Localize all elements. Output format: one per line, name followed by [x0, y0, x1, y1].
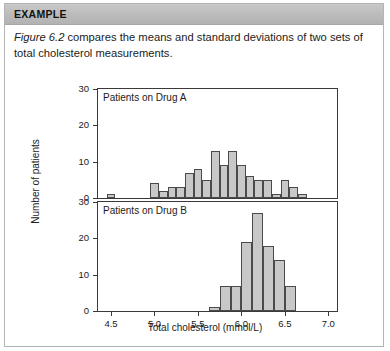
- y-tick-label: 10: [49, 269, 89, 280]
- bar: [272, 194, 281, 198]
- bar: [159, 191, 168, 198]
- x-tick-label: 4.5: [91, 318, 131, 329]
- bar: [231, 286, 242, 311]
- bar: [281, 180, 290, 198]
- paragraph-text: compares the means and standard deviatio…: [14, 31, 363, 59]
- x-tick-label: 5.0: [134, 318, 174, 329]
- y-tick-label: 30: [49, 196, 89, 207]
- bar: [241, 242, 252, 311]
- y-tick-label: 20: [49, 232, 89, 243]
- x-tick-mark: [241, 312, 242, 316]
- bar: [176, 187, 185, 198]
- bars-drug-b: [98, 202, 337, 311]
- x-tick-label: 6.5: [265, 318, 305, 329]
- figure-area: Number of patients Total cholesterol (mm…: [5, 64, 385, 346]
- x-tick-mark: [154, 312, 155, 316]
- y-tick-label: 30: [49, 83, 89, 94]
- histogram-drug-a: Patients on Drug A: [97, 88, 338, 199]
- y-tick-label: 0: [49, 305, 89, 316]
- bar: [263, 246, 274, 311]
- bar: [168, 187, 177, 198]
- bar: [298, 194, 307, 198]
- bar: [211, 151, 220, 198]
- x-tick-mark: [198, 312, 199, 316]
- histogram-drug-b: Patients on Drug B: [97, 201, 338, 312]
- bar: [202, 180, 211, 198]
- example-header-label: EXAMPLE: [14, 8, 67, 20]
- example-card: EXAMPLE Figure 6.2 compares the means an…: [4, 3, 384, 347]
- bar: [194, 169, 203, 198]
- bar: [285, 286, 296, 311]
- bar: [246, 176, 255, 198]
- bar: [209, 307, 220, 311]
- y-tick-label: 20: [49, 119, 89, 130]
- bar: [252, 213, 263, 311]
- bar: [220, 165, 229, 198]
- bar: [107, 194, 116, 198]
- x-tick-label: 7.0: [308, 318, 348, 329]
- x-tick-label: 5.5: [178, 318, 218, 329]
- bar: [274, 260, 285, 311]
- bar: [263, 180, 272, 198]
- example-paragraph: Figure 6.2 compares the means and standa…: [14, 30, 376, 61]
- x-tick-mark: [328, 312, 329, 316]
- x-tick-mark: [285, 312, 286, 316]
- y-axis-label: Number of patients: [30, 112, 41, 252]
- bar: [185, 173, 194, 198]
- bar: [289, 187, 298, 198]
- bar: [228, 151, 237, 198]
- bars-drug-a: [98, 89, 337, 198]
- y-tick-label: 10: [49, 156, 89, 167]
- bar: [150, 183, 159, 198]
- bar: [237, 165, 246, 198]
- bar: [254, 180, 263, 198]
- x-tick-mark: [111, 312, 112, 316]
- example-header-band: EXAMPLE: [5, 4, 383, 25]
- x-tick-label: 6.0: [221, 318, 261, 329]
- bar: [220, 286, 231, 311]
- figure-reference: Figure 6.2: [14, 31, 64, 43]
